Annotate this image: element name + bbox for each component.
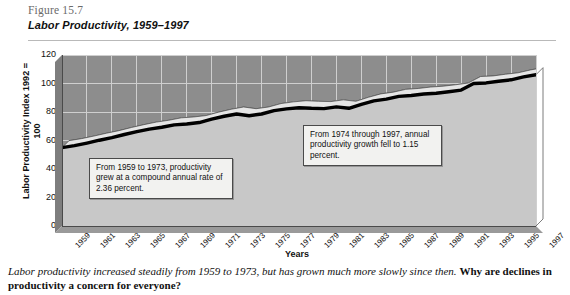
caption-lead: Labor productivity increased steadily fr… <box>8 265 457 277</box>
productivity-area-chart <box>0 0 570 295</box>
figure-caption: Labor productivity increased steadily fr… <box>8 265 564 292</box>
figure-container: Figure 15.7 Labor Productivity, 1959–199… <box>0 0 570 295</box>
annotation-callout-1: From 1959 to 1973, productivity grew at … <box>89 158 233 199</box>
annotation-callout-2: From 1974 through 1997, annual productiv… <box>303 125 442 166</box>
